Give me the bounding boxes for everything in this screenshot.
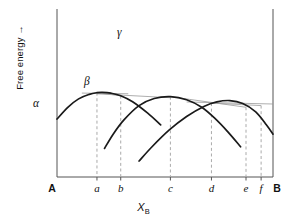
x-axis-label: XB bbox=[0, 201, 287, 216]
plot-canvas: α β γ abcdef A B bbox=[0, 0, 287, 222]
free-energy-curve-alpha bbox=[57, 92, 161, 125]
y-axis-arrow-icon: → bbox=[14, 25, 25, 35]
curve-label-alpha: α bbox=[33, 97, 40, 109]
y-axis-label: Free energy → bbox=[14, 3, 25, 113]
x-tick-group: abcdef bbox=[94, 177, 264, 194]
drop-line-group bbox=[97, 93, 261, 177]
x-axis-label-subscript: B bbox=[145, 207, 150, 216]
curve-label-gamma: γ bbox=[117, 26, 122, 39]
x-axis-end-label: B bbox=[273, 182, 281, 194]
x-tick-label-d: d bbox=[209, 182, 215, 194]
free-energy-curve-beta bbox=[105, 97, 241, 149]
curve-label-beta: β bbox=[83, 75, 90, 88]
x-tick-label-f: f bbox=[260, 182, 265, 194]
x-axis-label-text: X bbox=[137, 201, 144, 213]
curve-group bbox=[57, 92, 273, 161]
tangent-line-group bbox=[82, 93, 273, 108]
x-axis-start-label: A bbox=[48, 182, 56, 194]
x-tick-label-c: c bbox=[168, 182, 173, 194]
x-tick-label-b: b bbox=[118, 182, 124, 194]
x-tick-label-e: e bbox=[244, 182, 249, 194]
x-tick-label-a: a bbox=[94, 182, 100, 194]
free-energy-composition-figure: Free energy → α β γ abcdef A B XB bbox=[0, 0, 287, 222]
y-axis-label-text: Free energy bbox=[14, 38, 25, 90]
